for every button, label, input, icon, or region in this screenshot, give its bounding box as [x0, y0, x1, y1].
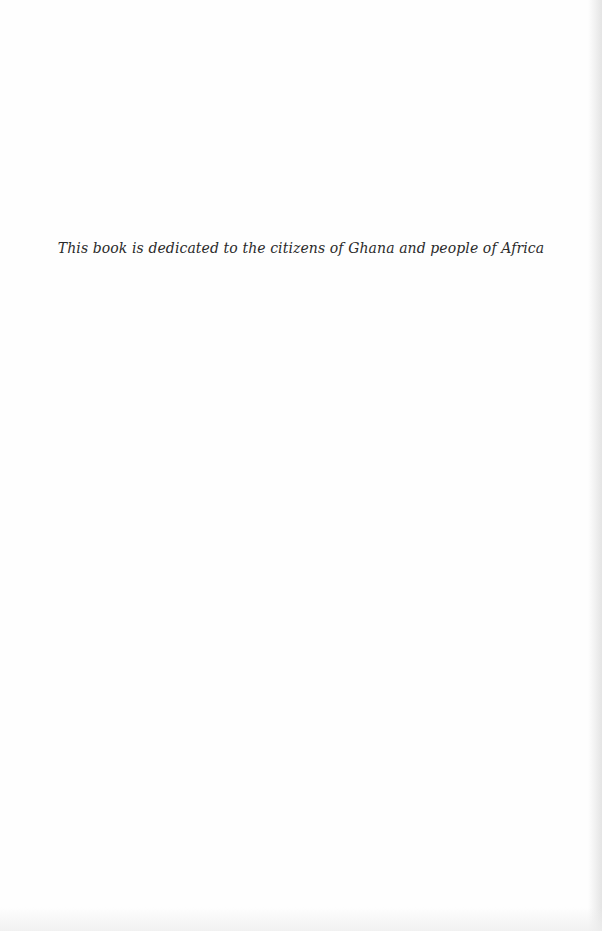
page-edge-shadow — [588, 0, 602, 931]
page-bottom-shadow — [0, 907, 602, 931]
dedication-text: This book is dedicated to the citizens o… — [0, 240, 602, 256]
book-page: This book is dedicated to the citizens o… — [0, 0, 602, 931]
